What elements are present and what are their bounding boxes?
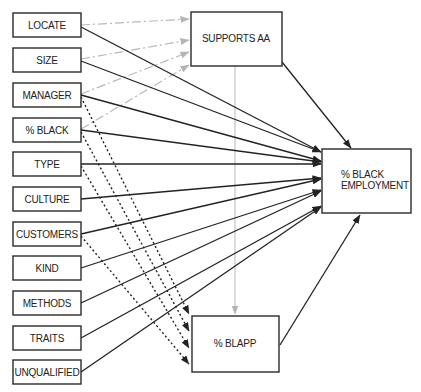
edge-type-blapp	[81, 166, 189, 348]
edge-size-outcome	[81, 61, 321, 152]
node-customers: CUSTOMERS	[13, 222, 81, 246]
edge-manager-blapp	[81, 97, 189, 314]
node-label: % BLACK	[25, 125, 69, 136]
node-locate: LOCATE	[13, 13, 81, 37]
node-label: UNQUALIFIED	[14, 367, 79, 378]
node-type: TYPE	[13, 152, 81, 176]
node-kind: KIND	[13, 256, 81, 280]
node-label: SIZE	[36, 55, 58, 66]
edge-manager-outcome	[81, 95, 321, 161]
node-label: METHODS	[23, 298, 72, 309]
node-methods: METHODS	[13, 291, 81, 315]
node-label: KIND	[35, 263, 58, 274]
node-label: CUSTOMERS	[16, 229, 78, 240]
edge-locate-supports	[81, 19, 189, 25]
edge-customers-blapp	[81, 236, 189, 364]
edge-pctblack-blapp	[81, 132, 189, 331]
node-culture: CULTURE	[13, 187, 81, 211]
node-supports-aa: SUPPORTS AA	[191, 12, 282, 66]
edge-size-supports	[81, 40, 189, 59]
node-traits: TRAITS	[13, 326, 81, 350]
node-unqualified: UNQUALIFIED	[13, 360, 81, 384]
node-pct-blapp: % BLAPP	[192, 316, 279, 372]
edge-methods-outcome	[81, 191, 321, 303]
edge-culture-outcome	[81, 178, 321, 199]
node-pct-black: % BLACK	[13, 118, 81, 142]
node-label: TYPE	[34, 159, 60, 170]
node-label: % BLAPP	[214, 338, 257, 349]
node-label-line2: EMPLOYMENT	[341, 180, 409, 191]
node-label: LOCATE	[28, 20, 67, 31]
node-label: CULTURE	[24, 194, 70, 205]
edge-pctblack-outcome	[81, 130, 321, 162]
edge-kind-outcome	[81, 190, 321, 268]
node-label: MANAGER	[22, 90, 71, 101]
node-size: SIZE	[13, 48, 81, 72]
node-label: SUPPORTS AA	[202, 33, 271, 44]
node-label-line1: % BLACK	[341, 169, 385, 180]
node-pct-black-employment: % BLACK EMPLOYMENT	[322, 149, 411, 213]
edge-manager-supports	[81, 52, 189, 94]
node-manager: MANAGER	[13, 83, 81, 107]
node-label: TRAITS	[30, 333, 65, 344]
edge-blapp-outcome	[280, 215, 360, 345]
edge-supports-outcome	[282, 62, 351, 148]
path-diagram: LOCATE SIZE MANAGER % BLACK TYPE CULTURE…	[0, 0, 421, 392]
